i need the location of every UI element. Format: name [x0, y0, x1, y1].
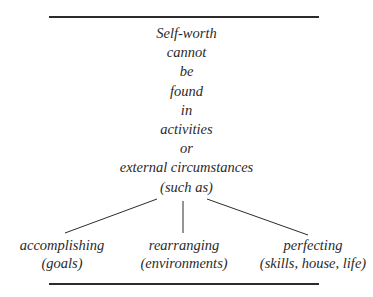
left-branch-line: [65, 199, 157, 233]
bottom-rule: [49, 283, 319, 285]
branch-detail: (skills, house, life): [248, 254, 373, 272]
branch-label: rearranging: [119, 236, 249, 254]
branch-label: perfecting: [248, 236, 373, 254]
branch-detail: (goals): [0, 254, 127, 272]
branch-rearranging: rearranging (environments): [119, 236, 249, 272]
branch-detail: (environments): [119, 254, 249, 272]
branch-perfecting: perfecting (skills, house, life): [248, 236, 373, 272]
right-branch-line: [207, 199, 308, 235]
branch-label: accomplishing: [0, 236, 127, 254]
branch-accomplishing: accomplishing (goals): [0, 236, 127, 272]
